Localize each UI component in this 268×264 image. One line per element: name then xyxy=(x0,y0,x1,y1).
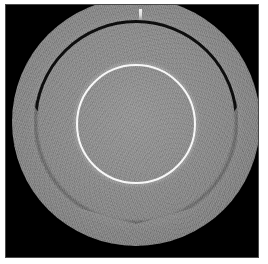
image-frame: Axial grayscale scan of concentric circu… xyxy=(0,0,268,264)
top-fiducial-marker-icon xyxy=(139,9,142,20)
image-title: Axial grayscale scan of concentric circu… xyxy=(0,0,1,1)
scan-image-plate xyxy=(5,4,259,258)
inner-bright-ring xyxy=(76,64,196,184)
scan-canvas xyxy=(6,5,258,257)
